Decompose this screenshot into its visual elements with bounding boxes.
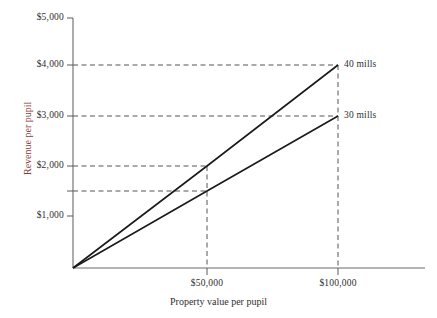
y-tick-label-3000: $3,000 — [4, 110, 64, 120]
series-label-30-mills: 30 mills — [344, 110, 376, 120]
y-axis-title: Revenue per pupil — [22, 102, 33, 175]
series-line-40-mills — [73, 65, 338, 268]
x-tick-label-100000: $100,000 — [303, 278, 373, 288]
series-label-40-mills: 40 mills — [344, 59, 376, 69]
x-tick-label-50000: $50,000 — [172, 278, 242, 288]
series-line-30-mills — [73, 116, 338, 268]
y-tick-label-1000: $1,000 — [4, 210, 64, 220]
chart-container: $5,000 $4,000 $3,000 $2,000 $1,000 $50,0… — [0, 0, 437, 318]
chart-canvas — [0, 0, 437, 318]
x-axis-title: Property value per pupil — [0, 296, 437, 307]
y-tick-label-4000: $4,000 — [4, 59, 64, 69]
y-tick-label-5000: $5,000 — [4, 12, 64, 22]
y-tick-label-2000: $2,000 — [4, 160, 64, 170]
